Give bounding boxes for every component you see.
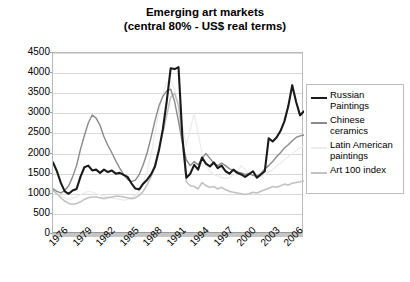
x-axis-tick-label: 1997 [212,225,235,248]
x-axis-tick-label: 1985 [118,225,141,248]
x-axis-tick-label: 1979 [71,225,94,248]
legend-item-label: Latin American paintings [330,140,393,161]
x-axis-tick-label: 2006 [282,225,305,248]
legend-item[interactable]: Art 100 index [311,165,400,178]
x-axis-tick-label: 1976 [47,225,70,248]
x-axis-tick-label: 1991 [165,225,188,248]
x-axis-tick-label: 1994 [188,225,211,248]
legend-swatch-icon [311,93,327,103]
legend-item[interactable]: Latin American paintings [311,140,400,161]
x-axis-tick-label: 2003 [259,225,282,248]
x-axis-tick-label: 1988 [141,225,164,248]
x-axis-tick-label: 2000 [235,225,258,248]
legend-item[interactable]: Chinese ceramics [311,115,400,136]
legend: Russian PaintingsChinese ceramicsLatin A… [306,84,404,194]
x-axis-tick-label: 1982 [94,225,117,248]
legend-swatch-icon [311,118,327,128]
legend-item-label: Chinese ceramics [330,115,368,136]
legend-swatch-icon [311,168,327,178]
legend-item-label: Russian Paintings [330,90,369,111]
legend-item-label: Art 100 index [330,165,386,176]
legend-swatch-icon [311,143,327,153]
legend-item[interactable]: Russian Paintings [311,90,400,111]
chart-container: Emerging art markets (central 80% - US$ … [0,0,410,282]
